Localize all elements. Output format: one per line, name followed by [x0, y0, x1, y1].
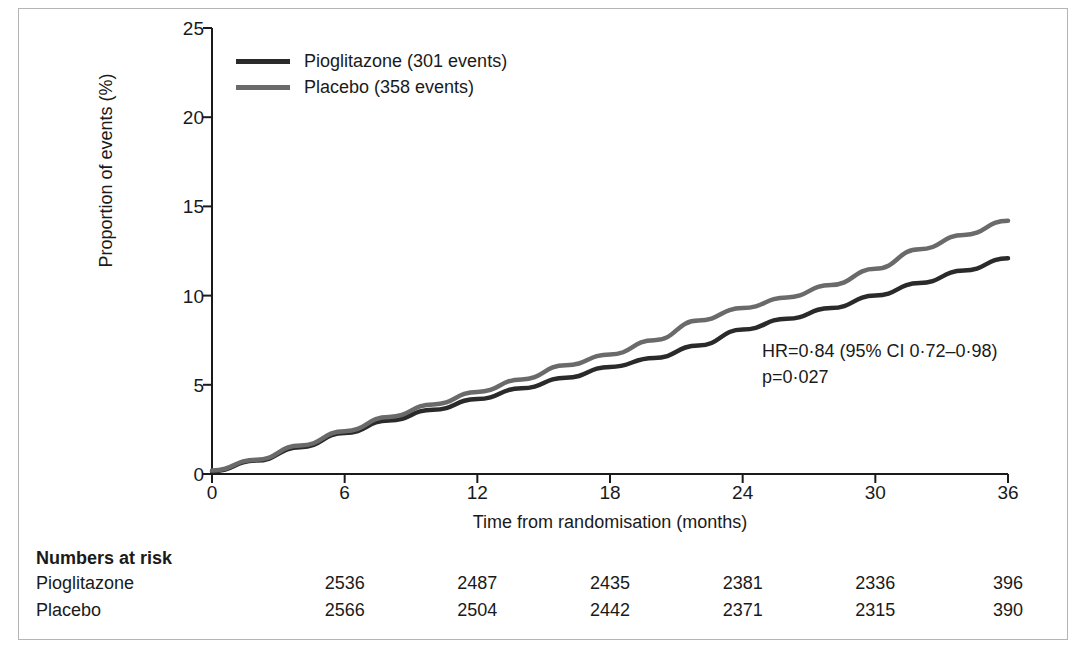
chart-legend: Pioglitazone (301 events)Placebo (358 ev…: [236, 48, 507, 100]
legend-label-placebo: Placebo (358 events): [304, 77, 474, 98]
risk-value: 2315: [840, 597, 910, 624]
y-axis-tick-label: 5: [164, 376, 204, 395]
legend-label-pioglitazone: Pioglitazone (301 events): [304, 51, 507, 72]
y-axis-tick-label: 10: [164, 287, 204, 306]
risk-value: 390: [973, 597, 1043, 624]
risk-value: 2381: [708, 570, 778, 597]
risk-row-label: Placebo: [36, 597, 101, 624]
legend-item-pioglitazone: Pioglitazone (301 events): [236, 48, 507, 74]
numbers-at-risk-title: Numbers at risk: [36, 546, 1036, 570]
risk-value: 2371: [708, 597, 778, 624]
legend-swatch-placebo: [236, 85, 290, 90]
x-axis-tick-label: 0: [182, 482, 242, 504]
figure-root: 0510152025 Proportion of events (%) 0612…: [0, 0, 1076, 656]
x-axis-tick-label: 24: [713, 482, 773, 504]
risk-value: 2336: [840, 570, 910, 597]
x-axis-tick-label: 36: [978, 482, 1038, 504]
risk-value: 2435: [575, 570, 645, 597]
hazard-ratio-text: HR=0·84 (95% CI 0·72–0·98): [762, 338, 998, 364]
numbers-at-risk-table: Numbers at risk Pioglitazone253624872435…: [36, 546, 1036, 624]
x-axis-tick-label: 30: [845, 482, 905, 504]
risk-value: 2442: [575, 597, 645, 624]
risk-value: 2504: [442, 597, 512, 624]
legend-item-placebo: Placebo (358 events): [236, 74, 507, 100]
y-axis-tick-label: 25: [164, 19, 204, 38]
x-axis-tick-label: 12: [447, 482, 507, 504]
y-axis: 0510152025: [152, 28, 204, 474]
x-axis-tick-label: 18: [580, 482, 640, 504]
risk-row: Pioglitazone25362487243523812336396: [36, 570, 1036, 597]
p-value-text: p=0·027: [762, 364, 998, 390]
legend-swatch-pioglitazone: [236, 59, 290, 64]
y-axis-tick-label: 20: [164, 108, 204, 127]
risk-value: 396: [973, 570, 1043, 597]
risk-value: 2536: [310, 570, 380, 597]
y-axis-tick-label: 15: [164, 197, 204, 216]
x-axis-tick-label: 6: [315, 482, 375, 504]
risk-value: 2487: [442, 570, 512, 597]
risk-row-label: Pioglitazone: [36, 570, 134, 597]
x-axis-title: Time from randomisation (months): [212, 512, 1008, 533]
risk-value: 2566: [310, 597, 380, 624]
y-axis-title: Proportion of events (%): [96, 21, 117, 321]
stats-annotation: HR=0·84 (95% CI 0·72–0·98) p=0·027: [762, 338, 998, 390]
numbers-at-risk-rows: Pioglitazone25362487243523812336396Place…: [36, 570, 1036, 624]
risk-row: Placebo25662504244223712315390: [36, 597, 1036, 624]
x-axis: 061218243036: [212, 482, 1008, 508]
